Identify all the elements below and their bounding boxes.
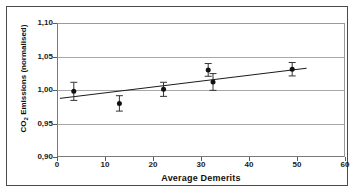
x-tick-label: 40 bbox=[234, 160, 264, 169]
x-tick-mark bbox=[249, 157, 250, 161]
y-tick-label: 1,05 bbox=[25, 53, 53, 61]
gridline-horizontal bbox=[58, 57, 344, 58]
gridline-horizontal bbox=[58, 124, 344, 125]
y-tick-label: 1,00 bbox=[25, 86, 53, 94]
y-tick-label: 0,95 bbox=[25, 120, 53, 128]
x-tick-label: 10 bbox=[90, 160, 120, 169]
x-tick-mark bbox=[297, 157, 298, 161]
y-axis-title: CO2 Emissions (normalised) bbox=[19, 4, 28, 154]
x-tick-mark bbox=[105, 157, 106, 161]
y-axis-title-suffix: Emissions (normalised) bbox=[19, 25, 28, 117]
x-tick-label: 50 bbox=[282, 160, 312, 169]
chart-figure: 0,900,951,001,051,10 0102030405060 Avera… bbox=[0, 0, 355, 193]
y-tick-mark bbox=[53, 23, 57, 24]
x-axis-title: Average Demerits bbox=[57, 173, 345, 183]
x-axis-tick-labels: 0102030405060 bbox=[0, 160, 355, 172]
x-tick-label: 20 bbox=[138, 160, 168, 169]
x-tick-label: 60 bbox=[330, 160, 355, 169]
x-tick-label: 30 bbox=[186, 160, 216, 169]
y-axis-title-prefix: CO bbox=[19, 120, 28, 132]
x-tick-mark bbox=[345, 157, 346, 161]
y-tick-mark bbox=[53, 90, 57, 91]
y-tick-label: 1,10 bbox=[25, 19, 53, 27]
x-tick-label: 0 bbox=[42, 160, 72, 169]
x-tick-mark bbox=[201, 157, 202, 161]
gridline-horizontal bbox=[58, 90, 344, 91]
y-tick-mark bbox=[53, 57, 57, 58]
y-tick-mark bbox=[53, 124, 57, 125]
x-tick-mark bbox=[57, 157, 58, 161]
x-tick-mark bbox=[153, 157, 154, 161]
y-axis-title-subscript: 2 bbox=[23, 117, 29, 120]
plot-area bbox=[57, 23, 345, 157]
